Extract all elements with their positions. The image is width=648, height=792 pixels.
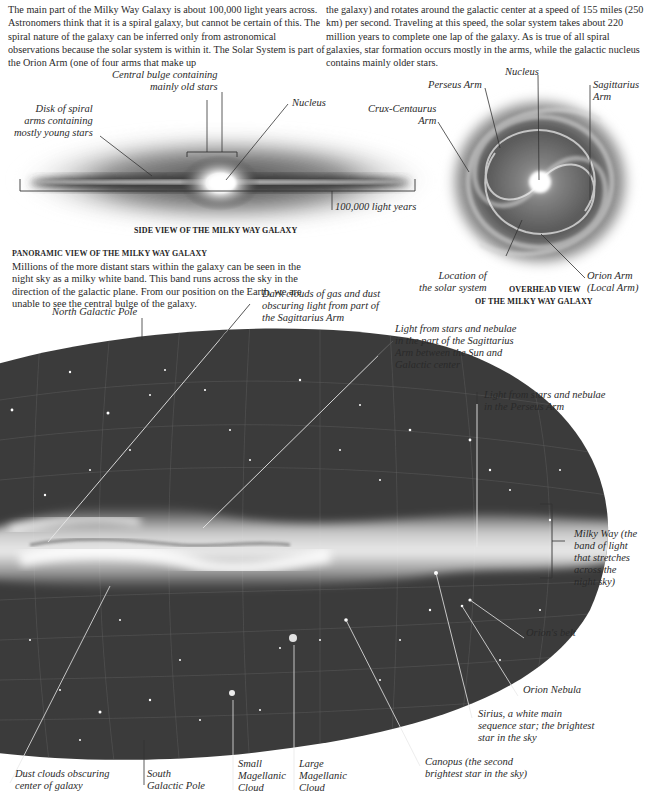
- label-line: Milky Way (the: [574, 528, 637, 539]
- label-sirius: Sirius, a white main sequence star; the …: [478, 708, 594, 744]
- label-line: Arm: [418, 115, 436, 126]
- label-canopus: Canopus (the second brightest star in th…: [425, 756, 527, 780]
- label-line: (Local Arm): [587, 282, 638, 293]
- label-line: Light from stars and nebulae: [395, 323, 517, 334]
- label-line: Sirius, a white main: [478, 708, 562, 719]
- panorama-heading: PANORAMIC VIEW OF THE MILKY WAY GALAXY: [12, 248, 312, 261]
- label-line: the Sagittarius Arm: [262, 312, 344, 323]
- overhead-caption-line1: OVERHEAD VIEW: [509, 285, 581, 294]
- label-line: Sagittarius: [593, 79, 639, 90]
- label-line: star in the sky: [478, 732, 537, 743]
- label-line: Magellanic: [299, 770, 347, 781]
- label-orions-belt: Orion's belt: [526, 627, 576, 639]
- label-line: mostly young stars: [14, 127, 93, 138]
- label-dust-clouds-center: Dust clouds obscuring center of galaxy: [15, 768, 110, 792]
- label-orion-arm: Orion Arm (Local Arm): [587, 270, 638, 294]
- side-view-caption: SIDE VIEW OF THE MILKY WAY GALAXY: [134, 226, 297, 235]
- label-milky-way-band: Milky Way (the band of light that stretc…: [574, 528, 637, 588]
- label-line: Magellanic: [238, 770, 286, 781]
- label-line: night sky): [574, 576, 615, 587]
- label-line: band of light: [574, 540, 628, 551]
- label-small-magellanic-cloud: Small Magellanic Cloud: [238, 758, 286, 792]
- label-light-sagittarius-arm: Light from stars and nebulae in the part…: [395, 323, 517, 371]
- label-dark-clouds-sagittarius: Dark clouds of gas and dust obscuring li…: [262, 288, 380, 324]
- label-line: Light from stars and nebulae: [484, 389, 606, 400]
- label-line: Disk of spiral: [36, 103, 93, 114]
- label-line: across the: [574, 564, 616, 575]
- label-line: in the Perseus Arm: [484, 401, 564, 412]
- label-north-galactic-pole: North Galactic Pole: [52, 306, 137, 318]
- label-line: the solar system: [419, 282, 487, 293]
- label-line: Large: [299, 758, 324, 769]
- overhead-caption-line2: OF THE MILKY WAY GALAXY: [475, 297, 593, 306]
- label-nucleus-overhead: Nucleus: [505, 66, 539, 78]
- label-line: Canopus (the second: [425, 756, 513, 767]
- label-line: brightest star in the sky): [425, 768, 527, 779]
- label-line: Orion Arm: [587, 270, 633, 281]
- label-line: Location of: [439, 270, 487, 281]
- label-disk-of-spiral-arms: Disk of spiral arms containing mostly yo…: [14, 103, 93, 139]
- label-line: Cloud: [299, 782, 325, 792]
- label-line: Arm between the Sun and: [395, 347, 502, 358]
- panorama-body: Millions of the more distant stars withi…: [12, 261, 302, 310]
- label-line: Galactic Pole: [147, 780, 205, 791]
- label-central-bulge: Central bulge containing mainly old star…: [112, 69, 218, 93]
- label-large-magellanic-cloud: Large Magellanic Cloud: [299, 758, 347, 792]
- label-nucleus-side: Nucleus: [292, 97, 326, 109]
- label-line: Crux-Centaurus: [368, 103, 436, 114]
- label-line: Arm: [593, 91, 611, 102]
- label-scale-100000-light-years: 100,000 light years: [335, 201, 416, 213]
- label-crux-centaurus-arm: Crux-Centaurus Arm: [368, 103, 436, 127]
- label-location-of-solar-system: Location of the solar system: [419, 270, 487, 294]
- label-line: Galactic center: [395, 359, 460, 370]
- label-orion-nebula: Orion Nebula: [523, 684, 581, 696]
- side-view-galaxy: [10, 130, 440, 230]
- label-south-galactic-pole: South Galactic Pole: [147, 768, 205, 792]
- label-line: sequence star; the brightest: [478, 720, 594, 731]
- label-line: that stretches: [574, 552, 630, 563]
- label-line: Central bulge containing: [112, 69, 218, 80]
- label-line: obscuring light from part of: [262, 300, 379, 311]
- label-line: Small: [238, 758, 262, 769]
- label-line: South: [147, 768, 171, 779]
- label-line: in the part of the Sagittarius: [395, 335, 514, 346]
- label-line: Cloud: [238, 782, 264, 792]
- label-line: arms containing: [24, 115, 93, 126]
- overhead-spiral-galaxy: [444, 92, 636, 272]
- label-line: center of galaxy: [15, 780, 83, 791]
- label-sagittarius-arm: Sagittarius Arm: [593, 79, 639, 103]
- label-light-perseus-arm: Light from stars and nebulae in the Pers…: [484, 389, 606, 413]
- label-line: Dust clouds obscuring: [15, 768, 110, 779]
- label-line: mainly old stars: [150, 81, 218, 92]
- label-line: Dark clouds of gas and dust: [262, 288, 380, 299]
- label-perseus-arm: Perseus Arm: [428, 79, 482, 91]
